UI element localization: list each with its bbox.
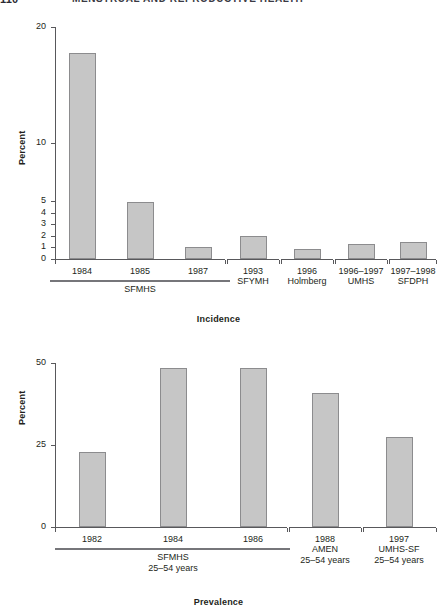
x-axis-line (289, 527, 361, 528)
x-axis-cap (55, 528, 56, 532)
group-label: SFMHS (90, 284, 190, 295)
x-axis-cap (227, 260, 228, 264)
x-axis-cap (287, 528, 288, 532)
y-tick (51, 27, 55, 28)
x-axis-cap (363, 528, 364, 532)
chart-prevalence: Percent 0255019821984198619881997SFMHS25… (0, 340, 437, 615)
x-axis-line (227, 259, 279, 260)
y-tick (51, 213, 55, 214)
y-tick-label: 0 (24, 254, 46, 263)
y-tick-label: 50 (24, 358, 46, 367)
bar (185, 247, 212, 259)
figure-container: 110 MENSTRUAL AND REPRODUCTIVE HEALTH Pe… (0, 0, 437, 615)
bar (240, 368, 267, 527)
y-tick (51, 201, 55, 202)
y-tick-label: 1 (24, 242, 46, 251)
y-axis-line (55, 363, 56, 528)
group-label: UMHS-SF25–54 years (349, 544, 437, 566)
y-tick-label: 3 (24, 219, 46, 228)
y-tick-label: 0 (24, 522, 46, 531)
bar (69, 53, 96, 259)
y-tick (51, 236, 55, 237)
group-rule (55, 548, 290, 550)
y-axis-label-incidence: Percent (17, 131, 27, 165)
x-axis-cap (335, 260, 336, 264)
y-tick (51, 247, 55, 248)
y-tick-label: 25 (24, 440, 46, 449)
x-axis-line (55, 527, 287, 528)
plot-area-prevalence: 0255019821984198619881997SFMHS25–54 year… (55, 363, 437, 527)
x-category-label: 1984 (133, 534, 213, 545)
y-tick-label: 10 (24, 138, 46, 147)
x-category-label: 1982 (52, 534, 132, 545)
y-tick-label: 5 (24, 196, 46, 205)
x-axis-line (55, 259, 225, 260)
x-axis-line (335, 259, 387, 260)
x-axis-title-prevalence: Prevalence (0, 597, 437, 607)
y-tick (51, 445, 55, 446)
bar (79, 452, 106, 527)
bar (240, 236, 267, 259)
bar (400, 242, 427, 259)
y-axis-line (55, 27, 56, 260)
y-tick (51, 363, 55, 364)
x-axis-cap (387, 260, 388, 264)
x-axis-cap (225, 260, 226, 264)
y-tick-label: 20 (24, 22, 46, 31)
y-tick-label: 2 (24, 231, 46, 240)
x-axis-cap (361, 528, 362, 532)
x-axis-line (363, 527, 436, 528)
x-axis-cap (281, 260, 282, 264)
group-label: SFMHS25–54 years (123, 552, 223, 574)
group-label: SFDPH (363, 276, 437, 287)
bar (348, 244, 375, 259)
bar (294, 249, 321, 259)
chart-incidence: Percent 01234510201984198519871993199619… (0, 0, 437, 335)
bar (127, 202, 154, 259)
x-axis-line (281, 259, 333, 260)
bar (312, 393, 339, 527)
y-tick (51, 224, 55, 225)
y-axis-label-prevalence: Percent (17, 391, 27, 425)
y-tick-label: 4 (24, 208, 46, 217)
x-axis-cap (289, 528, 290, 532)
x-axis-line (389, 259, 436, 260)
x-axis-cap (389, 260, 390, 264)
plot-area-incidence: 0123451020198419851987199319961996–19971… (55, 27, 437, 259)
bar (386, 437, 413, 527)
bar (160, 368, 187, 527)
x-axis-cap (333, 260, 334, 264)
y-tick (51, 143, 55, 144)
x-axis-cap (279, 260, 280, 264)
x-axis-cap (55, 260, 56, 264)
x-axis-title-incidence: Incidence (0, 314, 437, 324)
